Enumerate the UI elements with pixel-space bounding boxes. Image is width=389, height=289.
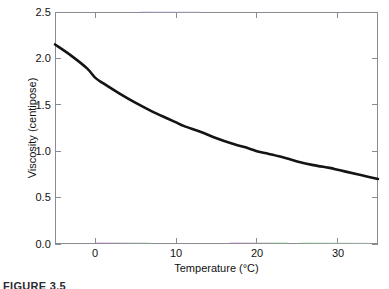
x-tick-label: 20 (237, 248, 277, 259)
y-axis-title: Viscosity (centipose) (26, 38, 38, 218)
y-axis-title-wrapper: Viscosity (centipose) (0, 0, 20, 289)
viscosity-curve (55, 44, 378, 179)
x-axis-ticks-top (95, 12, 337, 18)
x-tick-label: 30 (318, 248, 358, 259)
plot-area (55, 12, 378, 244)
x-axis-title: Temperature (°C) (55, 262, 378, 274)
y-axis-ticks-right (372, 12, 378, 244)
x-tick-label: 0 (75, 248, 115, 259)
figure-caption: FIGURE 3.5 (3, 281, 66, 289)
x-axis-ticks (95, 238, 337, 244)
x-tick-label: 10 (156, 248, 196, 259)
figure-container: 2.5 2.0 1.5 1.0 0.5 0.0 Viscosity (centi… (0, 0, 389, 289)
